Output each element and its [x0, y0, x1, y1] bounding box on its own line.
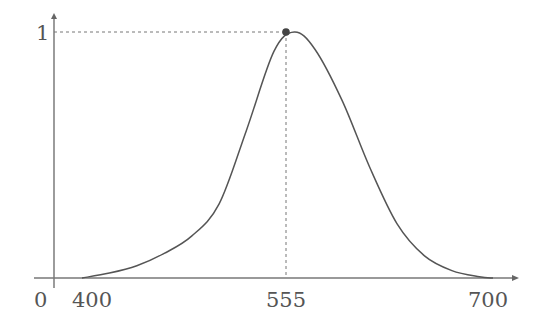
x-axis-arrow-icon	[512, 275, 519, 281]
y-axis-arrow-icon	[51, 13, 57, 19]
peak-marker	[282, 28, 290, 36]
x-tick-label-555: 555	[266, 288, 306, 312]
x-tick-label-400: 400	[72, 288, 112, 312]
chart: 1 0 400 555 700	[0, 0, 544, 324]
y-tick-label-1: 1	[36, 21, 49, 45]
x-tick-label-700: 700	[468, 288, 508, 312]
luminosity-curve	[82, 32, 493, 278]
origin-label: 0	[34, 288, 47, 312]
